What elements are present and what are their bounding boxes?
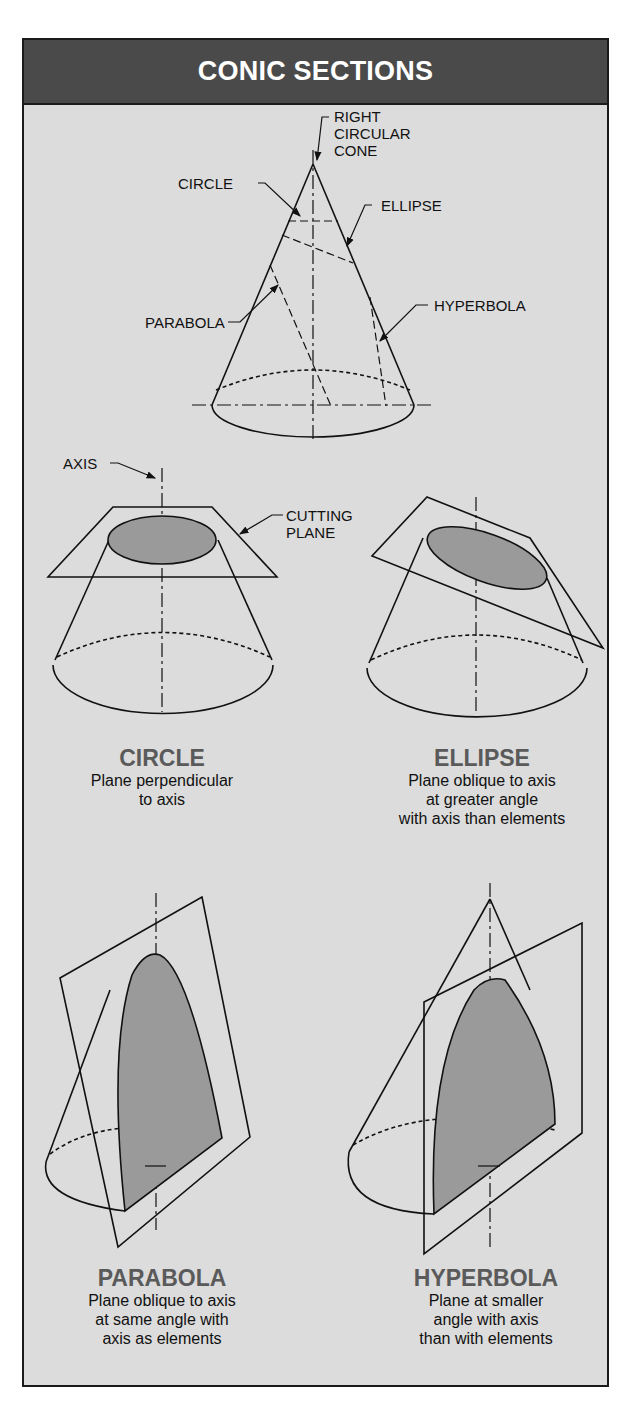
label-line: CONE bbox=[334, 142, 411, 159]
label-right-circular-cone: RIGHT CIRCULAR CONE bbox=[334, 108, 411, 159]
hyperbola-section-diagram bbox=[348, 883, 582, 1254]
caption-line: than with elements bbox=[356, 1329, 616, 1348]
label-line: CUTTING bbox=[286, 507, 353, 524]
caption-hyperbola: HYPERBOLA Plane at smaller angle with ax… bbox=[356, 1265, 616, 1348]
caption-line: axis as elements bbox=[32, 1329, 292, 1348]
label-line: CIRCULAR bbox=[334, 125, 411, 142]
right-circular-cone-diagram bbox=[192, 117, 433, 440]
caption-line: Plane at smaller bbox=[356, 1291, 616, 1310]
caption-line: at same angle with bbox=[32, 1310, 292, 1329]
caption-line: angle with axis bbox=[356, 1310, 616, 1329]
label-ellipse: ELLIPSE bbox=[381, 197, 442, 214]
caption-title: CIRCLE bbox=[32, 745, 292, 771]
caption-line: with axis than elements bbox=[352, 809, 612, 828]
label-parabola: PARABOLA bbox=[145, 314, 225, 331]
circle-section-diagram bbox=[48, 463, 283, 713]
caption-circle: CIRCLE Plane perpendicular to axis bbox=[32, 745, 292, 809]
caption-ellipse: ELLIPSE Plane oblique to axis at greater… bbox=[352, 745, 612, 828]
caption-parabola: PARABOLA Plane oblique to axis at same a… bbox=[32, 1265, 292, 1348]
label-line: RIGHT bbox=[334, 108, 411, 125]
label-circle: CIRCLE bbox=[178, 175, 233, 192]
label-cutting-plane: CUTTING PLANE bbox=[286, 507, 353, 541]
parabola-section-diagram bbox=[46, 893, 250, 1247]
conic-sections-illustration bbox=[0, 0, 633, 1411]
label-line: PLANE bbox=[286, 524, 353, 541]
caption-line: at greater angle bbox=[352, 790, 612, 809]
caption-title: PARABOLA bbox=[32, 1265, 292, 1291]
caption-line: Plane perpendicular bbox=[32, 771, 292, 790]
caption-title: ELLIPSE bbox=[352, 745, 612, 771]
ellipse-section-diagram bbox=[367, 497, 603, 717]
caption-line: to axis bbox=[32, 790, 292, 809]
caption-line: Plane oblique to axis bbox=[32, 1291, 292, 1310]
label-hyperbola: HYPERBOLA bbox=[434, 297, 526, 314]
caption-title: HYPERBOLA bbox=[356, 1265, 616, 1291]
label-axis: AXIS bbox=[63, 455, 97, 472]
caption-line: Plane oblique to axis bbox=[352, 771, 612, 790]
